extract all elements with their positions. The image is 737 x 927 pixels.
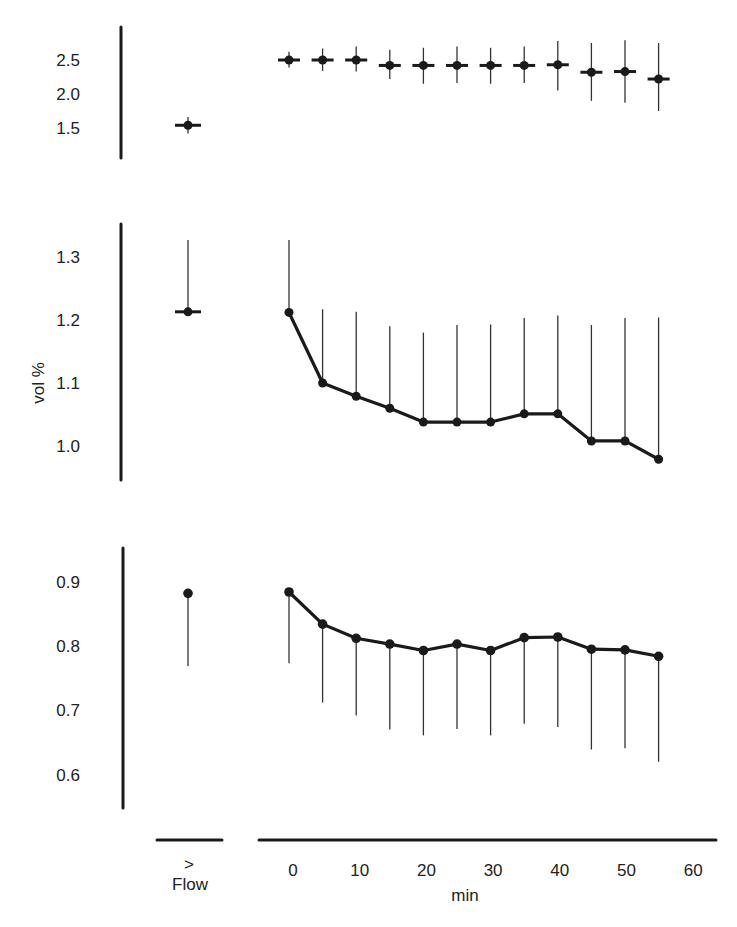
data-point bbox=[419, 646, 429, 656]
panel-top: 2.52.01.5 bbox=[56, 27, 669, 158]
data-point bbox=[452, 639, 462, 649]
data-point bbox=[519, 633, 529, 643]
flow-data-point bbox=[183, 588, 193, 598]
data-point bbox=[621, 67, 630, 76]
y-axis-label: vol % bbox=[29, 362, 48, 404]
data-point bbox=[385, 639, 395, 649]
data-point bbox=[352, 392, 361, 401]
y-tick-label: 2.0 bbox=[56, 85, 80, 104]
data-point bbox=[654, 651, 664, 661]
data-point bbox=[318, 379, 327, 388]
y-tick-label: 1.3 bbox=[56, 248, 80, 267]
y-tick-label: 2.5 bbox=[56, 51, 80, 70]
data-point bbox=[285, 308, 294, 317]
data-point bbox=[419, 418, 428, 427]
x-tick-label: 60 bbox=[684, 861, 703, 880]
data-point bbox=[419, 61, 428, 70]
data-point bbox=[486, 646, 496, 656]
data-point bbox=[385, 404, 394, 413]
data-point bbox=[553, 409, 562, 418]
y-tick-label: 0.7 bbox=[56, 701, 80, 720]
data-point bbox=[621, 436, 630, 445]
data-point bbox=[385, 61, 394, 70]
series-line bbox=[289, 592, 659, 656]
panels: 2.52.01.51.31.21.11.00.90.80.70.6 bbox=[56, 27, 669, 808]
data-point bbox=[553, 60, 562, 69]
y-tick-label: 0.9 bbox=[56, 573, 80, 592]
data-point bbox=[453, 61, 462, 70]
y-tick-label: 0.6 bbox=[56, 766, 80, 785]
data-point bbox=[351, 633, 361, 643]
data-point bbox=[587, 644, 597, 654]
data-point bbox=[654, 455, 663, 464]
data-point bbox=[520, 61, 529, 70]
flow-data-point bbox=[184, 121, 193, 130]
panel-bottom: 0.90.80.70.6 bbox=[56, 548, 663, 808]
data-point bbox=[285, 56, 294, 65]
data-point bbox=[620, 645, 630, 655]
x-tick-labels: 0102030405060 bbox=[288, 861, 702, 880]
y-tick-label: 1.1 bbox=[56, 374, 80, 393]
data-point bbox=[587, 436, 596, 445]
data-point bbox=[318, 619, 328, 629]
series-line bbox=[289, 312, 659, 459]
flow-data-point bbox=[184, 307, 193, 316]
data-point bbox=[587, 68, 596, 77]
x-axis-label: min bbox=[451, 886, 478, 905]
y-tick-label: 1.0 bbox=[56, 437, 80, 456]
data-point bbox=[486, 418, 495, 427]
flow-marker: > bbox=[184, 855, 194, 874]
data-point bbox=[352, 56, 361, 65]
data-point bbox=[453, 418, 462, 427]
flow-label: Flow bbox=[172, 875, 209, 894]
x-tick-label: 50 bbox=[617, 861, 636, 880]
x-tick-label: 0 bbox=[288, 861, 297, 880]
data-point bbox=[284, 587, 294, 597]
x-tick-label: 40 bbox=[550, 861, 569, 880]
x-tick-label: 20 bbox=[417, 861, 436, 880]
x-tick-label: 10 bbox=[350, 861, 369, 880]
y-tick-label: 1.2 bbox=[56, 311, 80, 330]
x-tick-label: 30 bbox=[484, 861, 503, 880]
data-point bbox=[486, 61, 495, 70]
data-point bbox=[654, 75, 663, 84]
data-point bbox=[553, 632, 563, 642]
data-point bbox=[520, 409, 529, 418]
y-tick-label: 0.8 bbox=[56, 637, 80, 656]
data-point bbox=[318, 56, 327, 65]
panel-middle: 1.31.21.11.0 bbox=[56, 224, 663, 480]
y-tick-label: 1.5 bbox=[56, 119, 80, 138]
chart: vol % > Flow 0102030405060 min 2.52.01.5… bbox=[0, 0, 737, 927]
